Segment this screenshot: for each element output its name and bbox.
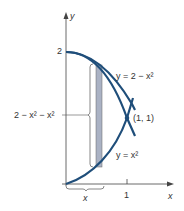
intersection-label: (1, 1)	[133, 113, 154, 123]
y-axis-arrow-icon	[64, 12, 69, 19]
y-tick-label: 2	[57, 46, 62, 56]
upper-curve-label: y = 2 − x²	[116, 71, 154, 81]
axes	[62, 12, 174, 187]
x-axis-arrow-icon	[167, 182, 174, 187]
x-tick-label: 1	[124, 190, 129, 200]
y-axis-label: y	[69, 11, 75, 21]
intersection-point	[125, 116, 130, 121]
strip-width-label: x	[82, 193, 88, 203]
lower-curve-label: y = x²	[116, 150, 138, 160]
height-brace	[88, 64, 93, 167]
representative-strip	[96, 65, 102, 167]
area-between-curves-diagram: y 2 1 x y = 2 − x² y = x² (1, 1) 2 − x² …	[0, 0, 184, 211]
x-axis-label: x	[167, 191, 173, 201]
width-brace	[66, 186, 104, 191]
strip-height-label: 2 − x² − x²	[14, 110, 55, 120]
